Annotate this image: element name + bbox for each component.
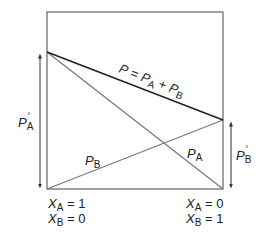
total-pressure-label: P = PA + PB (116, 61, 187, 102)
pa-pure-label: PA° (18, 111, 34, 132)
right-xb-label: XB = 1 (185, 211, 223, 228)
raoult-diagram: P = PA + PB PB PA PA° PB° XA = 1 XB = 0 … (0, 0, 262, 238)
left-xb-label: XB = 0 (47, 211, 85, 228)
pb-pure-label: PB° (236, 144, 252, 165)
pa-line-label: PA (187, 146, 203, 163)
line-total-p (47, 52, 223, 120)
pb-line-label: PB (85, 153, 101, 170)
